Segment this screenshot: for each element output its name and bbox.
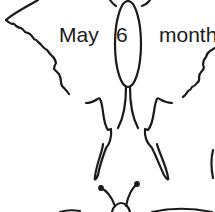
- right-tail: [145, 98, 172, 179]
- lower-left-wing-top: [60, 210, 80, 212]
- day-number-label: 6: [116, 24, 128, 45]
- month-word-label: month: [159, 24, 215, 45]
- lower-antenna-right: [126, 184, 137, 206]
- left-antenna-top: [110, 0, 116, 6]
- right-wing-wavy-edge: [183, 48, 215, 97]
- left-tail: [86, 98, 111, 179]
- right-lower-wing-edge: [212, 150, 214, 178]
- lower-antenna-left: [101, 188, 115, 206]
- butterfly-illustration: May 6 month: [0, 0, 215, 212]
- right-antenna-top: [142, 0, 150, 6]
- lower-right-wing-top: [152, 209, 212, 212]
- left-wing-outline: [6, 0, 38, 20]
- month-name-label: May: [59, 24, 99, 45]
- abdomen: [118, 87, 138, 128]
